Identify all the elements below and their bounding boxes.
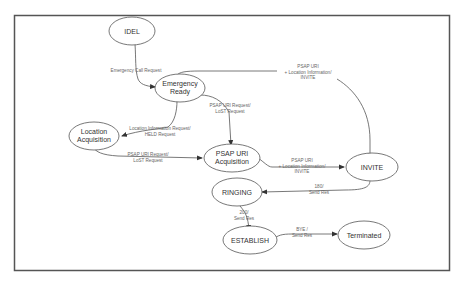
node-psap-uri-acquisition[interactable]: PSAP URI Acquisition — [204, 144, 260, 172]
svg-text:Send Res: Send Res — [234, 216, 255, 221]
svg-text:ESTABLISH: ESTABLISH — [231, 237, 269, 244]
node-terminated[interactable]: Terminated — [338, 221, 390, 249]
label-idel-to-ready: Emergency Call Request — [111, 68, 163, 73]
svg-text:HELD Request: HELD Request — [145, 132, 176, 137]
svg-text:+ Location Information/: + Location Information/ — [285, 70, 333, 75]
svg-text:Terminated: Terminated — [347, 232, 382, 239]
edge-ready-to-invite — [177, 71, 277, 75]
svg-text:INVITE: INVITE — [301, 75, 316, 80]
svg-text:LoST Request: LoST Request — [133, 158, 163, 163]
state-diagram: IDEL Emergency Ready Location Acquisitio… — [0, 0, 464, 285]
svg-text:PSAP URI: PSAP URI — [216, 150, 249, 157]
svg-text:Acquisition: Acquisition — [77, 136, 111, 144]
edge-idel-to-ready — [135, 44, 155, 87]
svg-text:Send Res: Send Res — [309, 190, 330, 195]
svg-text:PSAP URI: PSAP URI — [291, 158, 312, 163]
svg-text:INVITE: INVITE — [295, 169, 310, 174]
edge-ready-to-invite-2 — [337, 79, 370, 158]
node-location-acquisition[interactable]: Location Acquisition — [69, 122, 119, 150]
svg-text:Location Information Request/: Location Information Request/ — [129, 126, 191, 131]
svg-text:Location: Location — [81, 128, 108, 135]
node-invite[interactable]: INVITE — [346, 153, 398, 181]
node-idel[interactable]: IDEL — [109, 17, 155, 45]
svg-text:PSAP URI: PSAP URI — [297, 64, 318, 69]
svg-text:180/: 180/ — [315, 184, 325, 189]
svg-text:Send Res: Send Res — [292, 233, 313, 238]
svg-text:Acquisition: Acquisition — [215, 158, 249, 166]
node-establish[interactable]: ESTABLISH — [223, 226, 277, 254]
svg-text:BYE /: BYE / — [296, 227, 308, 232]
svg-text:200/: 200/ — [240, 210, 250, 215]
svg-text:LoST Request: LoST Request — [215, 109, 245, 114]
svg-text:RINGING: RINGING — [222, 189, 252, 196]
svg-text:Emergency: Emergency — [162, 80, 198, 88]
svg-text:+ Location Information/: + Location Information/ — [279, 164, 327, 169]
svg-text:PSAP URI Request/: PSAP URI Request/ — [209, 103, 251, 108]
svg-text:Ready: Ready — [170, 88, 191, 96]
svg-text:INVITE: INVITE — [361, 164, 384, 171]
svg-text:PSAP URI Request/: PSAP URI Request/ — [127, 152, 169, 157]
node-ringing[interactable]: RINGING — [212, 178, 262, 206]
svg-text:IDEL: IDEL — [124, 28, 140, 35]
node-emergency-ready[interactable]: Emergency Ready — [155, 74, 205, 102]
